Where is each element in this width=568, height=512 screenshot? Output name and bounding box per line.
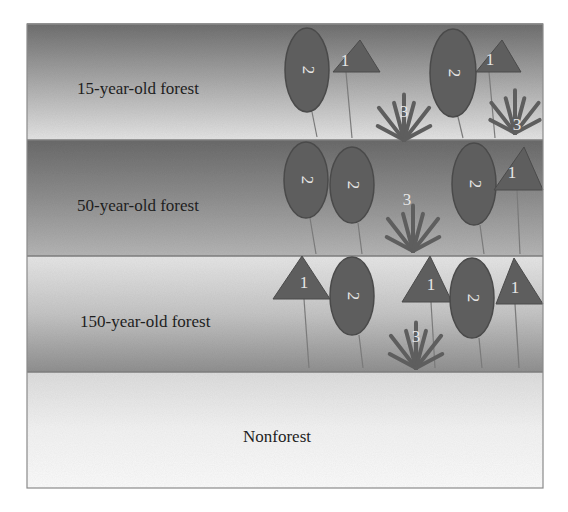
oval-tree-number: 2 <box>299 66 318 75</box>
fern-plant-number: 3 <box>403 190 412 209</box>
triangle-tree-number: 1 <box>427 275 436 294</box>
oval-tree-number: 2 <box>466 180 485 189</box>
oval-tree-number: 2 <box>298 176 317 185</box>
fern-plant-number: 3 <box>412 327 421 346</box>
triangle-tree-number: 1 <box>486 50 495 69</box>
triangle-tree-number: 1 <box>300 273 309 292</box>
triangle-tree-number: 1 <box>511 278 520 297</box>
band-label-50: 50-year-old forest <box>77 196 199 215</box>
band-label-nonforest: Nonforest <box>243 427 311 446</box>
band-label-15: 15-year-old forest <box>77 79 199 98</box>
triangle-tree-number: 1 <box>508 163 517 182</box>
oval-tree-number: 2 <box>344 181 363 190</box>
oval-tree-number: 2 <box>344 292 363 301</box>
fern-plant-number: 3 <box>513 115 522 134</box>
oval-tree-icon: 2 <box>285 28 329 112</box>
oval-tree-icon: 2 <box>330 257 374 335</box>
oval-tree-icon: 2 <box>450 258 494 338</box>
band-label-150: 150-year-old forest <box>80 312 211 331</box>
forest-succession-diagram: 21321322321121321 15-year-old forest 50-… <box>0 0 568 512</box>
oval-tree-number: 2 <box>445 69 464 78</box>
oval-tree-icon: 2 <box>284 142 328 218</box>
oval-tree-icon: 2 <box>452 143 496 225</box>
oval-tree-icon: 2 <box>430 29 476 117</box>
fern-plant-number: 3 <box>400 102 409 121</box>
oval-tree-number: 2 <box>464 294 483 303</box>
oval-tree-icon: 2 <box>330 147 374 223</box>
triangle-tree-number: 1 <box>341 51 350 70</box>
